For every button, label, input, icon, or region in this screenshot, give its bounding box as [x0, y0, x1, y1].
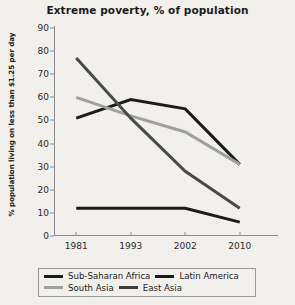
y-tick-label: 30 [38, 162, 54, 172]
plot-area: 0102030405060708090 1981199320022010 [54, 28, 272, 236]
legend-label: South Asia [68, 284, 114, 293]
y-tick-label: 70 [38, 69, 54, 79]
y-tick-label: 10 [38, 208, 54, 218]
legend-swatch-icon [44, 275, 63, 278]
chart-title: Extreme poverty, % of population [0, 4, 295, 16]
y-tick-label: 80 [38, 46, 54, 56]
y-tick-label: 20 [38, 185, 54, 195]
legend-row: South AsiaEast Asia [44, 284, 250, 293]
y-tick-label: 50 [38, 115, 54, 125]
legend-label: East Asia [143, 284, 182, 293]
legend-swatch-icon [119, 286, 138, 289]
series-line [76, 97, 240, 164]
y-axis-label: % population living on less than $1.25 p… [7, 30, 16, 220]
legend-entry[interactable]: Latin America [155, 272, 238, 281]
legend-entry[interactable]: South Asia [44, 284, 114, 293]
legend-row: Sub-Saharan AfricaLatin America [44, 272, 250, 281]
y-tick-label: 40 [38, 139, 54, 149]
x-tick-label: 1981 [65, 241, 88, 251]
legend-label: Sub-Saharan Africa [68, 272, 150, 281]
x-tick-label: 2010 [228, 241, 251, 251]
x-tick-label: 2002 [174, 241, 197, 251]
legend-entry[interactable]: Sub-Saharan Africa [44, 272, 150, 281]
series-lines [54, 28, 272, 236]
legend-swatch-icon [155, 275, 174, 278]
x-tick-label: 1993 [119, 241, 142, 251]
chart-root: Extreme poverty, % of population % popul… [0, 0, 295, 305]
chart-legend: Sub-Saharan AfricaLatin AmericaSouth Asi… [38, 268, 256, 297]
legend-swatch-icon [44, 286, 63, 289]
legend-entry[interactable]: East Asia [119, 284, 182, 293]
y-tick-label: 60 [38, 92, 54, 102]
y-tick-label: 90 [38, 23, 54, 33]
legend-label: Latin America [179, 272, 238, 281]
series-line [76, 58, 240, 208]
series-line [76, 208, 240, 222]
series-line [76, 100, 240, 165]
y-tick-label: 0 [43, 231, 54, 241]
